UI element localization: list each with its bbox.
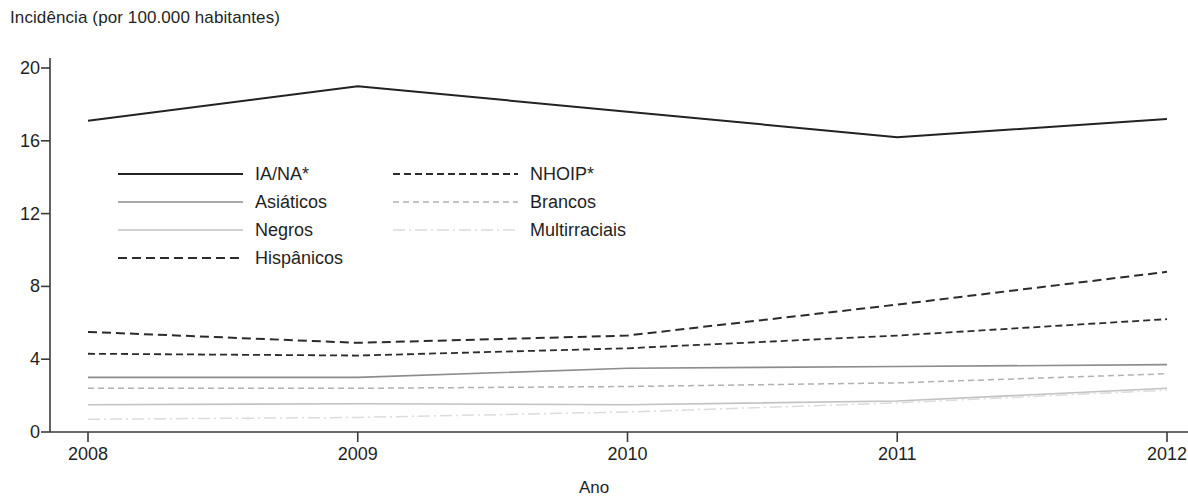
legend-item-label: Hispânicos xyxy=(255,249,343,267)
legend-line-swatch-icon xyxy=(118,221,243,239)
y-axis-ticks xyxy=(41,68,50,432)
series-line xyxy=(88,319,1167,355)
series-line xyxy=(88,272,1167,343)
legend-column-right: NHOIP*BrancosMultirraciais xyxy=(393,160,626,244)
legend-item-label: IA/NA* xyxy=(255,165,309,183)
legend-item: Asiáticos xyxy=(118,188,343,216)
series-line xyxy=(88,365,1167,378)
legend-line-swatch-icon xyxy=(393,193,518,211)
legend-item-label: Negros xyxy=(255,221,313,239)
legend-line-swatch-icon xyxy=(118,249,243,267)
legend-item-label: Brancos xyxy=(530,193,596,211)
legend-item-label: Multirraciais xyxy=(530,221,626,239)
line-chart: Incidência (por 100.000 habitantes) 0481… xyxy=(0,0,1188,502)
legend-item: Brancos xyxy=(393,188,626,216)
x-tick-label: 2009 xyxy=(338,444,378,465)
x-tick-label: 2010 xyxy=(607,444,647,465)
series-line xyxy=(88,388,1167,404)
x-tick-label: 2012 xyxy=(1147,444,1187,465)
legend-item: NHOIP* xyxy=(393,160,626,188)
legend-item: Negros xyxy=(118,216,343,244)
series-line xyxy=(88,86,1167,137)
legend-item-label: NHOIP* xyxy=(530,165,594,183)
legend-item: Multirraciais xyxy=(393,216,626,244)
legend-line-swatch-icon xyxy=(393,165,518,183)
legend-item-label: Asiáticos xyxy=(255,193,327,211)
legend-line-swatch-icon xyxy=(393,221,518,239)
legend-column-left: IA/NA*AsiáticosNegrosHispânicos xyxy=(118,160,343,272)
x-axis-title: Ano xyxy=(0,478,1188,498)
legend-line-swatch-icon xyxy=(118,193,243,211)
x-tick-label: 2011 xyxy=(878,444,917,465)
series-line xyxy=(88,374,1167,389)
legend-item: Hispânicos xyxy=(118,244,343,272)
x-tick-label: 2008 xyxy=(68,444,108,465)
x-axis-ticks xyxy=(88,432,1167,442)
legend-line-swatch-icon xyxy=(118,165,243,183)
legend-item: IA/NA* xyxy=(118,160,343,188)
